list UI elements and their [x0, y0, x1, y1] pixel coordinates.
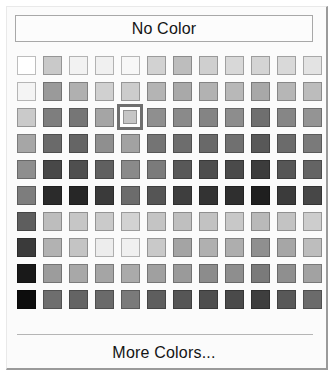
color-swatch-r3-c9[interactable] — [221, 104, 247, 130]
color-swatch-r4-c9[interactable] — [221, 130, 247, 156]
color-swatch-r5-c8[interactable] — [195, 156, 221, 182]
color-swatch-r2-c11[interactable] — [273, 78, 299, 104]
color-swatch-r4-c6[interactable] — [143, 130, 169, 156]
color-swatch-r7-c4[interactable] — [91, 208, 117, 234]
color-swatch-r9-c2[interactable] — [39, 260, 65, 286]
color-swatch-r9-c10[interactable] — [247, 260, 273, 286]
color-swatch-r5-c4[interactable] — [91, 156, 117, 182]
color-swatch-r1-c7[interactable] — [169, 52, 195, 78]
color-swatch-r1-c6[interactable] — [143, 52, 169, 78]
color-swatch-r4-c11[interactable] — [273, 130, 299, 156]
color-swatch-r6-c1[interactable] — [13, 182, 39, 208]
color-swatch-r9-c6[interactable] — [143, 260, 169, 286]
color-swatch-r1-c8[interactable] — [195, 52, 221, 78]
color-swatch-r7-c10[interactable] — [247, 208, 273, 234]
color-swatch-r10-c4[interactable] — [91, 286, 117, 312]
color-swatch-r6-c6[interactable] — [143, 182, 169, 208]
color-swatch-r2-c9[interactable] — [221, 78, 247, 104]
color-swatch-r1-c5[interactable] — [117, 52, 143, 78]
color-swatch-r6-c2[interactable] — [39, 182, 65, 208]
color-swatch-r10-c5[interactable] — [117, 286, 143, 312]
color-swatch-r2-c8[interactable] — [195, 78, 221, 104]
color-swatch-r8-c9[interactable] — [221, 234, 247, 260]
color-swatch-r5-c11[interactable] — [273, 156, 299, 182]
color-swatch-r8-c3[interactable] — [65, 234, 91, 260]
color-swatch-r8-c4[interactable] — [91, 234, 117, 260]
color-swatch-r3-c4[interactable] — [91, 104, 117, 130]
color-swatch-r6-c11[interactable] — [273, 182, 299, 208]
color-swatch-r10-c10[interactable] — [247, 286, 273, 312]
color-swatch-r8-c1[interactable] — [13, 234, 39, 260]
color-swatch-r7-c8[interactable] — [195, 208, 221, 234]
color-swatch-r10-c7[interactable] — [169, 286, 195, 312]
color-swatch-r3-c10[interactable] — [247, 104, 273, 130]
color-swatch-r7-c3[interactable] — [65, 208, 91, 234]
color-swatch-r1-c10[interactable] — [247, 52, 273, 78]
color-swatch-r2-c1[interactable] — [13, 78, 39, 104]
color-swatch-r6-c5[interactable] — [117, 182, 143, 208]
color-swatch-r7-c9[interactable] — [221, 208, 247, 234]
color-swatch-r4-c3[interactable] — [65, 130, 91, 156]
color-swatch-r10-c1[interactable] — [13, 286, 39, 312]
color-swatch-r9-c8[interactable] — [195, 260, 221, 286]
color-swatch-r3-c8[interactable] — [195, 104, 221, 130]
color-swatch-r4-c2[interactable] — [39, 130, 65, 156]
color-swatch-r2-c2[interactable] — [39, 78, 65, 104]
color-swatch-r1-c3[interactable] — [65, 52, 91, 78]
color-swatch-r1-c2[interactable] — [39, 52, 65, 78]
color-swatch-r2-c7[interactable] — [169, 78, 195, 104]
color-swatch-r6-c9[interactable] — [221, 182, 247, 208]
no-color-button[interactable]: No Color — [15, 15, 313, 42]
color-swatch-grid[interactable] — [13, 52, 325, 312]
color-swatch-r2-c5[interactable] — [117, 78, 143, 104]
color-swatch-r9-c12[interactable] — [299, 260, 325, 286]
color-swatch-r10-c6[interactable] — [143, 286, 169, 312]
color-swatch-r1-c1[interactable] — [13, 52, 39, 78]
color-swatch-r2-c3[interactable] — [65, 78, 91, 104]
color-swatch-r8-c8[interactable] — [195, 234, 221, 260]
color-swatch-r1-c12[interactable] — [299, 52, 325, 78]
color-swatch-r1-c11[interactable] — [273, 52, 299, 78]
color-swatch-r5-c10[interactable] — [247, 156, 273, 182]
color-swatch-r5-c3[interactable] — [65, 156, 91, 182]
color-swatch-r10-c11[interactable] — [273, 286, 299, 312]
color-swatch-r2-c4[interactable] — [91, 78, 117, 104]
color-swatch-r5-c6[interactable] — [143, 156, 169, 182]
color-swatch-r4-c10[interactable] — [247, 130, 273, 156]
color-swatch-r9-c4[interactable] — [91, 260, 117, 286]
color-swatch-r6-c8[interactable] — [195, 182, 221, 208]
color-swatch-r4-c8[interactable] — [195, 130, 221, 156]
color-swatch-r9-c7[interactable] — [169, 260, 195, 286]
color-swatch-r4-c4[interactable] — [91, 130, 117, 156]
color-swatch-r10-c2[interactable] — [39, 286, 65, 312]
color-swatch-r8-c11[interactable] — [273, 234, 299, 260]
color-swatch-r9-c11[interactable] — [273, 260, 299, 286]
color-swatch-r8-c12[interactable] — [299, 234, 325, 260]
color-swatch-r7-c7[interactable] — [169, 208, 195, 234]
color-swatch-r7-c5[interactable] — [117, 208, 143, 234]
color-swatch-r1-c9[interactable] — [221, 52, 247, 78]
color-swatch-r9-c5[interactable] — [117, 260, 143, 286]
color-swatch-r8-c5[interactable] — [117, 234, 143, 260]
color-swatch-r3-c3[interactable] — [65, 104, 91, 130]
color-swatch-r7-c2[interactable] — [39, 208, 65, 234]
color-swatch-r5-c5[interactable] — [117, 156, 143, 182]
color-swatch-r6-c12[interactable] — [299, 182, 325, 208]
color-swatch-r7-c6[interactable] — [143, 208, 169, 234]
color-swatch-r3-c1[interactable] — [13, 104, 39, 130]
more-colors-button[interactable]: More Colors... — [15, 340, 313, 366]
color-swatch-r10-c3[interactable] — [65, 286, 91, 312]
color-swatch-r8-c6[interactable] — [143, 234, 169, 260]
color-swatch-r6-c10[interactable] — [247, 182, 273, 208]
color-swatch-r6-c3[interactable] — [65, 182, 91, 208]
color-swatch-r5-c7[interactable] — [169, 156, 195, 182]
color-swatch-r6-c7[interactable] — [169, 182, 195, 208]
color-swatch-r10-c9[interactable] — [221, 286, 247, 312]
color-swatch-r3-c7[interactable] — [169, 104, 195, 130]
color-swatch-r2-c6[interactable] — [143, 78, 169, 104]
color-swatch-r5-c1[interactable] — [13, 156, 39, 182]
color-swatch-r6-c4[interactable] — [91, 182, 117, 208]
color-swatch-r7-c11[interactable] — [273, 208, 299, 234]
color-swatch-r5-c2[interactable] — [39, 156, 65, 182]
color-swatch-r3-c11[interactable] — [273, 104, 299, 130]
